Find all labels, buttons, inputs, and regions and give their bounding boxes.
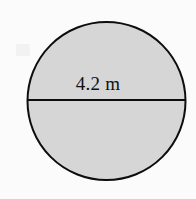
circle-diagram — [0, 0, 196, 199]
figure-canvas: 4.2 m — [0, 0, 196, 199]
diameter-label: 4.2 m — [0, 73, 196, 95]
